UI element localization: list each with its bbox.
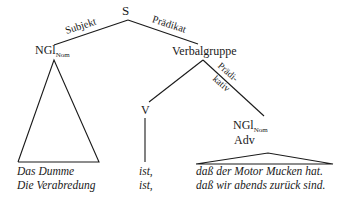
predicative-triangle [196,153,333,164]
node-verb: V [141,104,150,116]
sentence-2-verb: ist, [139,179,153,191]
sentence-1-subject: Das Dumme [17,165,74,177]
node-subject-ngl-label: NGl [35,43,56,57]
syntax-tree-diagram: S Subjekt Prädikat Prädi- kativ NGlNom V… [0,0,351,201]
predicative-branch [203,60,264,116]
node-subject-ngl-subscript: Nom [56,51,70,59]
node-predicative-adv: Adv [234,134,255,146]
node-verbalgruppe: Verbalgruppe [172,45,237,57]
subject-triangle [18,60,99,162]
sentence-2-clause: daß wir abends zurück sind. [196,179,325,191]
node-predicative-ngl-subscript: Nom [254,126,268,134]
root-node-s: S [122,5,129,17]
sentence-2-subject: Die Verabredung [17,179,95,191]
sentence-1-verb: ist, [139,165,153,177]
node-subject-ngl: NGlNom [35,44,70,58]
node-predicative-ngl-label: NGl [233,118,254,132]
verb-branch [149,60,203,102]
node-predicative-ngl: NGlNom [233,119,268,133]
sentence-1-clause: daß der Motor Mucken hat. [196,165,323,177]
